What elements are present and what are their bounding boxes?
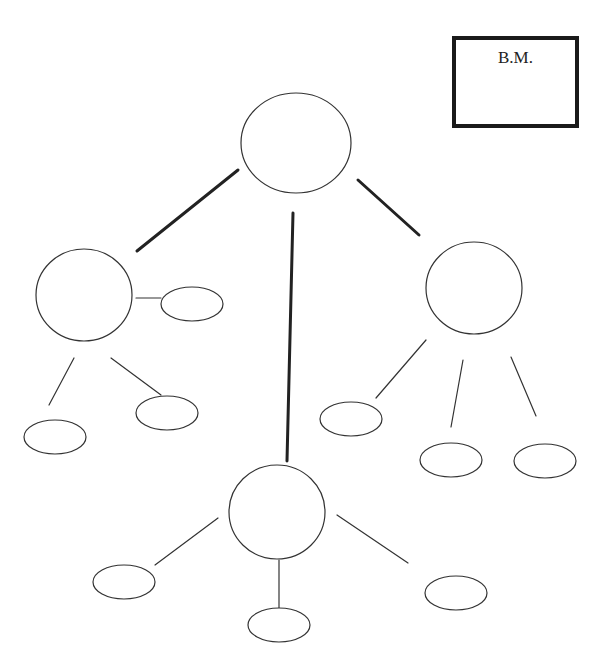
node-bottom-c-ellipse: [425, 576, 487, 610]
node-left-a-ellipse: [24, 420, 86, 454]
node-right-a-ellipse: [320, 402, 382, 436]
node-bottom-b-ellipse: [248, 608, 310, 642]
node-bottom-a-ellipse: [93, 565, 155, 599]
node-right-circle: [426, 242, 522, 334]
node-left-b-ellipse: [136, 396, 198, 430]
edge-root-to-left: [137, 170, 238, 251]
edge-root-to-bottom: [287, 213, 293, 461]
edge-right-to-right-b: [451, 360, 463, 427]
node-bottom-circle: [229, 465, 325, 559]
node-right-b-ellipse: [420, 443, 482, 477]
edge-left-to-left-b: [111, 358, 161, 395]
edge-bottom-to-bottom-c: [337, 515, 408, 563]
initials-box: B.M.: [452, 36, 579, 128]
edge-right-to-right-c: [511, 357, 536, 416]
node-left-side-ellipse: [161, 287, 223, 321]
edge-root-to-right: [358, 180, 419, 235]
edge-right-to-right-a: [376, 340, 426, 398]
initials-label: B.M.: [456, 48, 575, 68]
map-nodes: [24, 93, 576, 642]
node-right-c-ellipse: [514, 444, 576, 478]
node-left-circle: [36, 249, 132, 341]
edge-bottom-to-bottom-a: [155, 518, 218, 565]
edge-left-to-left-a: [49, 358, 74, 405]
node-root-circle: [241, 93, 351, 193]
